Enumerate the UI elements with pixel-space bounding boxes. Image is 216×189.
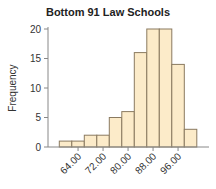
histogram-bar bbox=[84, 135, 97, 147]
x-tick-label: 64.00 bbox=[58, 150, 84, 176]
y-axis-label: Frequency bbox=[7, 64, 18, 111]
x-tick-label: 80.00 bbox=[108, 150, 134, 176]
histogram-bar bbox=[72, 141, 85, 147]
y-tick-label: 15 bbox=[30, 53, 42, 64]
y-tick-label: 20 bbox=[30, 24, 42, 35]
histogram-bar bbox=[134, 53, 147, 147]
y-tick-label: 10 bbox=[30, 83, 42, 94]
histogram-bar bbox=[59, 141, 72, 147]
y-tick-label: 5 bbox=[35, 112, 41, 123]
y-tick-label: 0 bbox=[35, 142, 41, 153]
histogram-bar bbox=[184, 129, 197, 147]
x-tick-label: 72.00 bbox=[83, 150, 109, 176]
x-tick-label: 96.00 bbox=[158, 150, 184, 176]
histogram-bar bbox=[147, 29, 160, 147]
histogram-bar bbox=[109, 118, 122, 148]
histogram-bar bbox=[97, 135, 110, 147]
x-tick-label: 88.00 bbox=[133, 150, 159, 176]
histogram-bar bbox=[172, 64, 185, 147]
histogram-bar bbox=[159, 29, 172, 147]
histogram-bar bbox=[122, 112, 135, 147]
histogram: 0510152064.0072.0080.0088.0096.00Frequen… bbox=[0, 0, 216, 189]
